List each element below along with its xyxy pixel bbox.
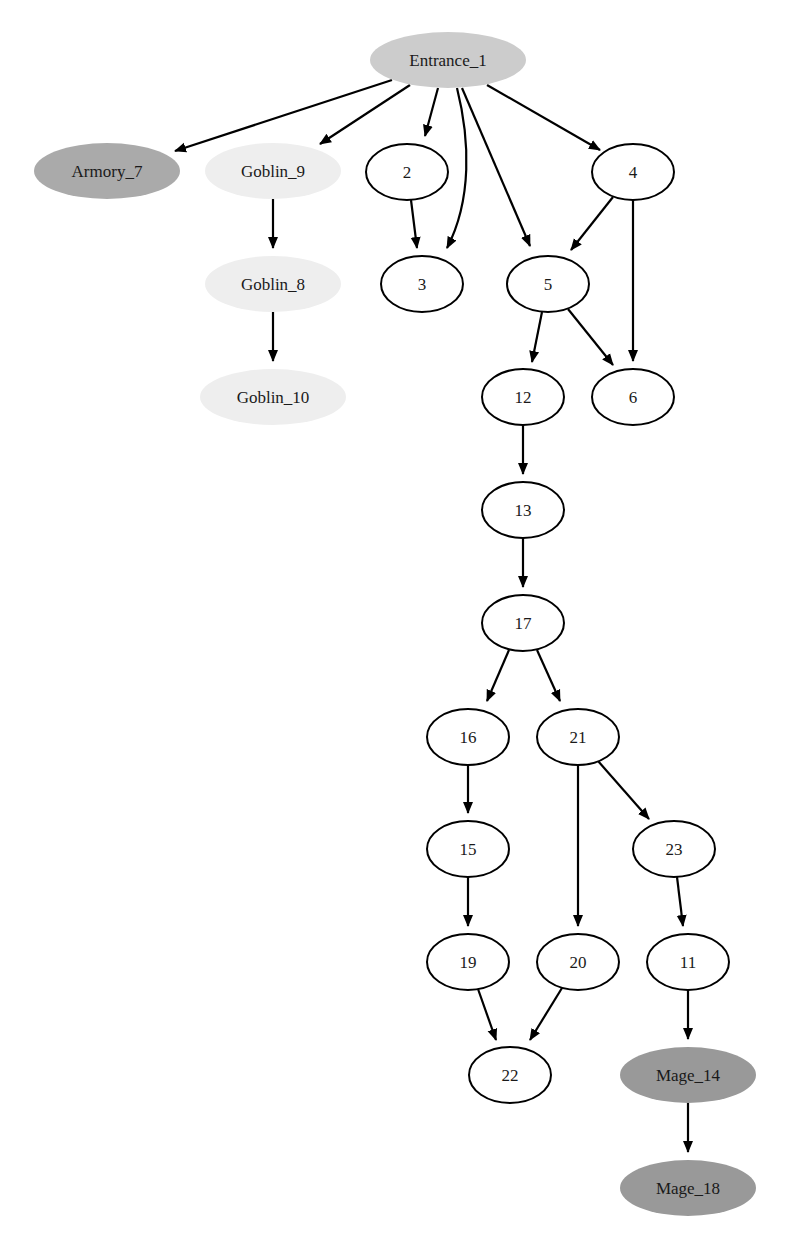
node-12[interactable]: 12 [482, 369, 564, 425]
edge-entrance-1-to-3 [447, 88, 466, 248]
node-22[interactable]: 22 [469, 1047, 551, 1103]
edge-20-to-22 [530, 988, 562, 1040]
nodes-layer: Entrance_1Armory_7Goblin_9Goblin_8Goblin… [34, 32, 756, 1216]
node-label: 17 [515, 614, 533, 633]
node-label: 13 [515, 501, 532, 520]
node-21[interactable]: 21 [537, 709, 619, 765]
node-2[interactable]: 2 [366, 144, 448, 200]
edge-5-to-6 [568, 309, 613, 365]
node-4[interactable]: 4 [592, 144, 674, 200]
edge-4-to-5 [571, 197, 613, 250]
node-label: Goblin_8 [241, 275, 305, 294]
node-23[interactable]: 23 [633, 821, 715, 877]
node-label: Mage_14 [656, 1066, 721, 1085]
edge-2-to-3 [411, 200, 417, 248]
dungeon-graph: Entrance_1Armory_7Goblin_9Goblin_8Goblin… [0, 0, 789, 1242]
node-20[interactable]: 20 [537, 934, 619, 990]
edge-17-to-16 [487, 650, 509, 701]
node-armory-7[interactable]: Armory_7 [34, 143, 180, 199]
node-15[interactable]: 15 [427, 821, 509, 877]
node-label: 5 [544, 275, 553, 294]
node-label: 20 [570, 953, 587, 972]
node-label: 4 [629, 163, 638, 182]
node-goblin-9[interactable]: Goblin_9 [205, 143, 341, 199]
node-label: 21 [570, 728, 587, 747]
node-label: Entrance_1 [409, 51, 486, 70]
node-mage-18[interactable]: Mage_18 [620, 1160, 756, 1216]
node-label: Goblin_10 [237, 388, 310, 407]
node-6[interactable]: 6 [592, 369, 674, 425]
edge-entrance-1-to-5 [462, 88, 530, 246]
node-13[interactable]: 13 [482, 482, 564, 538]
node-label: 23 [666, 840, 683, 859]
node-label: 12 [515, 388, 532, 407]
node-3[interactable]: 3 [381, 256, 463, 312]
edge-19-to-22 [478, 989, 496, 1040]
edge-entrance-1-to-goblin-9 [320, 85, 410, 144]
node-17[interactable]: 17 [482, 595, 564, 651]
node-19[interactable]: 19 [427, 934, 509, 990]
node-label: 22 [502, 1066, 519, 1085]
node-label: Mage_18 [656, 1179, 720, 1198]
node-label: 6 [629, 388, 638, 407]
edge-5-to-12 [532, 312, 542, 362]
node-11[interactable]: 11 [647, 934, 729, 990]
node-label: 16 [460, 728, 477, 747]
node-label: Goblin_9 [241, 162, 305, 181]
edge-17-to-21 [537, 650, 560, 701]
node-16[interactable]: 16 [427, 709, 509, 765]
node-label: 19 [460, 953, 477, 972]
node-5[interactable]: 5 [507, 256, 589, 312]
edges-layer [175, 80, 688, 1152]
node-goblin-10[interactable]: Goblin_10 [200, 369, 346, 425]
edge-23-to-11 [677, 877, 683, 926]
node-label: Armory_7 [72, 162, 143, 181]
edge-entrance-1-to-2 [425, 88, 438, 136]
edge-21-to-23 [598, 761, 649, 819]
node-label: 11 [680, 953, 696, 972]
edge-entrance-1-to-armory-7 [175, 80, 392, 151]
node-mage-14[interactable]: Mage_14 [620, 1047, 756, 1103]
node-label: 15 [460, 840, 477, 859]
node-entrance-1[interactable]: Entrance_1 [370, 32, 526, 88]
node-label: 2 [403, 163, 412, 182]
edge-entrance-1-to-4 [487, 85, 600, 150]
node-goblin-8[interactable]: Goblin_8 [205, 256, 341, 312]
node-label: 3 [418, 275, 427, 294]
